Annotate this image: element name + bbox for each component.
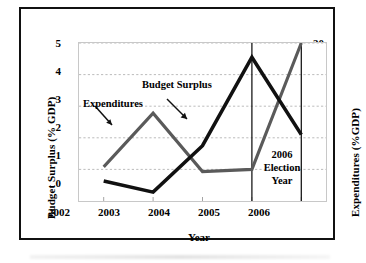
- expenditures-annotation-label: Expenditures: [83, 98, 143, 109]
- y-tick-left-2: 2: [43, 121, 61, 133]
- y-tick-left-1: 1: [43, 149, 61, 161]
- x-tick-2003: 2003: [87, 206, 131, 218]
- election-year-line-2: Election: [252, 162, 312, 175]
- election-year-annotation: 2006 Election Year: [252, 149, 312, 187]
- election-year-line-1: 2006: [252, 149, 312, 162]
- x-tick-2005: 2005: [187, 206, 231, 218]
- x-tick-2004: 2004: [137, 206, 181, 218]
- x-axis-title: Year: [21, 231, 366, 243]
- figure-frame: Budget Surplus (% GDP) Expenditures (%GD…: [19, 7, 335, 240]
- y-tick-left-3: 3: [43, 93, 61, 105]
- x-tick-marks: [104, 197, 302, 201]
- y-tick-left-4: 4: [43, 65, 61, 77]
- x-tick-2006: 2006: [237, 206, 281, 218]
- x-tick-2002: 2002: [37, 206, 81, 218]
- y-tick-left-0: 0: [43, 177, 61, 189]
- y-tick-left-5: 5: [43, 37, 61, 49]
- budget-surplus-arrow-icon: [167, 99, 187, 119]
- election-year-line-3: Year: [252, 175, 312, 188]
- y-axis-right-title: Expenditures (%GDP): [349, 108, 361, 217]
- page-scan-artifact: [30, 255, 330, 259]
- budget-surplus-annotation-label: Budget Surplus: [142, 79, 212, 90]
